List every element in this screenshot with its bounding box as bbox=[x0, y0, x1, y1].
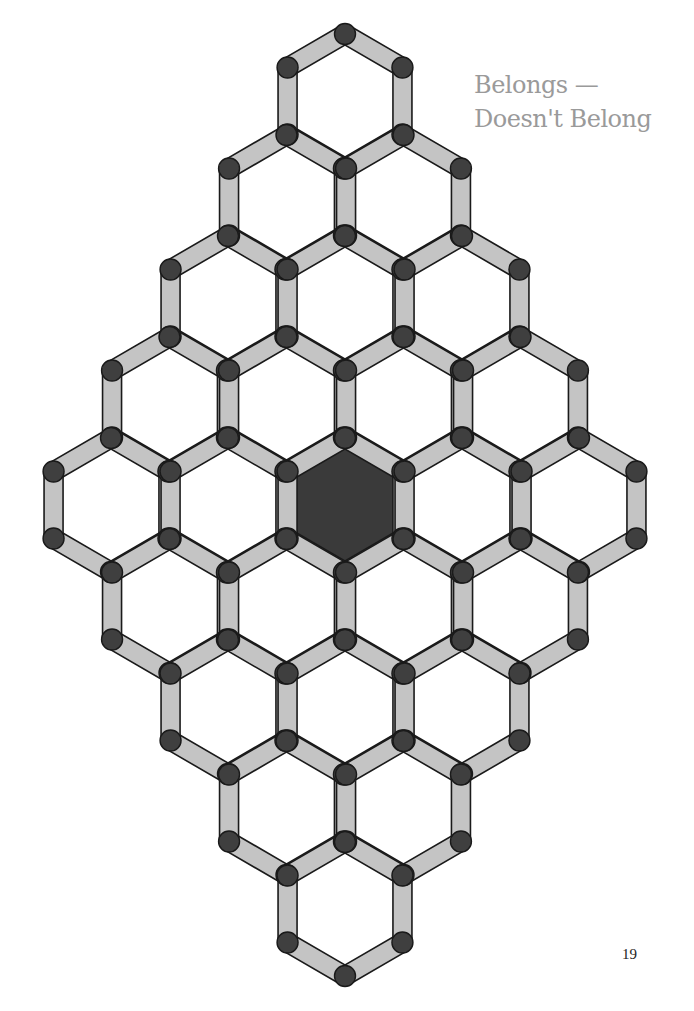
hex-node bbox=[102, 360, 123, 381]
hex-node bbox=[567, 562, 588, 583]
hex-node bbox=[567, 629, 588, 650]
hex-node bbox=[394, 259, 415, 280]
hex-node bbox=[453, 360, 474, 381]
hex-node bbox=[335, 832, 356, 853]
hex-node bbox=[336, 158, 357, 179]
hex-node bbox=[218, 630, 239, 651]
hex-node bbox=[335, 630, 356, 651]
hex-node bbox=[392, 57, 413, 78]
hex-node bbox=[160, 663, 181, 684]
hex-node bbox=[219, 764, 240, 785]
hex-node bbox=[101, 428, 122, 449]
hex-node bbox=[277, 865, 298, 886]
title-line-1: Belongs — bbox=[474, 68, 651, 102]
hex-node bbox=[626, 461, 647, 482]
hex-node bbox=[277, 259, 298, 280]
hex-node bbox=[393, 327, 414, 348]
hex-node bbox=[453, 562, 474, 583]
hex-node bbox=[393, 731, 414, 752]
hex-node bbox=[277, 57, 298, 78]
hex-node bbox=[335, 226, 356, 247]
hex-node bbox=[392, 865, 413, 886]
hex-node bbox=[219, 562, 240, 583]
hex-node bbox=[43, 528, 64, 549]
hex-node bbox=[276, 327, 297, 348]
hex-node bbox=[219, 360, 240, 381]
hex-node bbox=[336, 764, 357, 785]
hex-node bbox=[452, 226, 473, 247]
hex-node bbox=[277, 663, 298, 684]
hex-node bbox=[394, 663, 415, 684]
hex-node bbox=[159, 327, 180, 348]
hex-node bbox=[336, 360, 357, 381]
hex-node bbox=[276, 731, 297, 752]
hex-node bbox=[509, 730, 530, 751]
hex-node bbox=[510, 327, 531, 348]
hex-node bbox=[160, 730, 181, 751]
hex-node bbox=[450, 764, 471, 785]
hex-node bbox=[277, 932, 298, 953]
hex-node bbox=[569, 428, 590, 449]
hex-node bbox=[218, 428, 239, 449]
hex-node bbox=[102, 629, 123, 650]
hex-node bbox=[335, 428, 356, 449]
hex-node bbox=[393, 125, 414, 146]
hex-node bbox=[509, 663, 530, 684]
hex-node bbox=[219, 158, 240, 179]
hex-node bbox=[218, 226, 239, 247]
hex-node bbox=[394, 461, 415, 482]
hex-node bbox=[277, 461, 298, 482]
hex-node bbox=[160, 259, 181, 280]
hex-node bbox=[393, 529, 414, 550]
hex-node bbox=[335, 966, 356, 987]
hex-node bbox=[567, 360, 588, 381]
hex-node bbox=[335, 24, 356, 45]
title-line-2: Doesn't Belong bbox=[474, 102, 651, 136]
hex-node bbox=[43, 461, 64, 482]
hex-node bbox=[102, 562, 123, 583]
hex-node bbox=[452, 630, 473, 651]
page-number: 19 bbox=[622, 946, 637, 963]
hex-node bbox=[450, 158, 471, 179]
hex-node bbox=[510, 529, 531, 550]
hex-node bbox=[509, 259, 530, 280]
hex-node bbox=[392, 932, 413, 953]
hex-node bbox=[511, 461, 532, 482]
hex-node bbox=[336, 562, 357, 583]
hex-node bbox=[450, 831, 471, 852]
hex-node bbox=[276, 125, 297, 146]
hex-node bbox=[159, 529, 180, 550]
hex-node bbox=[626, 528, 647, 549]
page-title: Belongs — Doesn't Belong bbox=[474, 68, 651, 136]
hex-node bbox=[276, 529, 297, 550]
hex-node bbox=[160, 461, 181, 482]
hex-node bbox=[452, 428, 473, 449]
hex-game-board bbox=[0, 0, 694, 1011]
hex-node bbox=[219, 831, 240, 852]
